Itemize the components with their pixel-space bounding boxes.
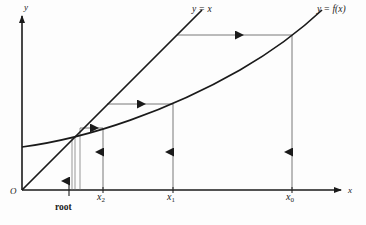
identity-line-label: y = x — [192, 4, 212, 14]
x-tick-label-x2: x2 — [97, 191, 105, 204]
function-curve — [22, 10, 322, 147]
identity-line — [22, 10, 202, 190]
vertical-arrows-group — [103, 35, 292, 190]
diagram-canvas — [0, 0, 366, 225]
x-tick-subscript-x1: 1 — [171, 196, 175, 204]
horizontal-arrows-group — [80, 35, 292, 128]
x-tick-subscript-x0: 0 — [290, 196, 294, 204]
x-tick-label-x0: x0 — [286, 191, 294, 204]
root-label: root — [55, 202, 72, 212]
x-tick-subscript-x2: 2 — [101, 196, 105, 204]
x-tick-label-x1: x1 — [167, 191, 175, 204]
y-axis-label: y — [24, 2, 28, 12]
cobweb-diagram: y x O y = x y = f(x) x2 x1 x0 root — [0, 0, 366, 225]
origin-label: O — [10, 186, 17, 196]
x-axis-label: x — [348, 185, 352, 195]
function-curve-label: y = f(x) — [317, 4, 346, 14]
